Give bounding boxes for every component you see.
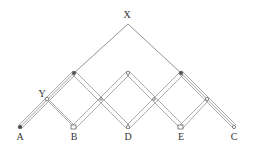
- node-mid-3: [153, 98, 156, 101]
- lattice-diagram: [0, 0, 254, 148]
- label-y: Y: [38, 89, 45, 99]
- double-line-edges: [19, 71, 236, 129]
- label-x: X: [123, 10, 130, 20]
- node-top-3: [179, 71, 183, 75]
- node-mid-2: [100, 98, 103, 101]
- node-e: [178, 125, 183, 129]
- apex-lines: [74, 24, 181, 73]
- label-c: C: [231, 132, 238, 142]
- label-e: E: [178, 132, 184, 142]
- node-y: [45, 97, 49, 101]
- node-d: [126, 125, 129, 128]
- label-a: A: [16, 132, 23, 142]
- node-top-2: [126, 71, 129, 74]
- label-d: D: [124, 132, 131, 142]
- node-b: [71, 125, 76, 129]
- node-mid-4: [205, 97, 208, 100]
- node-top-1: [72, 71, 76, 75]
- label-b: B: [71, 132, 78, 142]
- node-a: [18, 125, 22, 129]
- node-c: [232, 125, 235, 128]
- nodes: [18, 71, 235, 129]
